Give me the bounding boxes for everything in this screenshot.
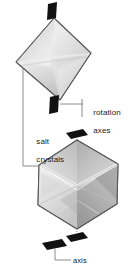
salt-crystal-rotation-axes-figure: rotation axes salt crystals axis: [0, 0, 130, 266]
axis-legend-key: [42, 239, 67, 250]
label-salt-crystals-line1: salt: [36, 137, 49, 146]
label-salt-crystals: salt crystals: [27, 128, 64, 173]
label-rotation-axes: rotation axes: [84, 99, 121, 144]
leader-line-axis-legend: [55, 249, 71, 260]
axis-marker-legend: [42, 239, 67, 250]
label-rotation-axes-line1: rotation: [93, 108, 120, 117]
axis-marker-bottom-lower: [66, 232, 88, 242]
salt-crystal-diamond: [16, 2, 91, 114]
axis-marker-top-lower: [49, 95, 59, 114]
label-salt-crystals-line2: crystals: [36, 155, 64, 164]
axis-marker-top-upper: [47, 2, 57, 20]
label-axis: axis: [73, 256, 87, 265]
label-rotation-axes-line2: axes: [93, 126, 110, 135]
